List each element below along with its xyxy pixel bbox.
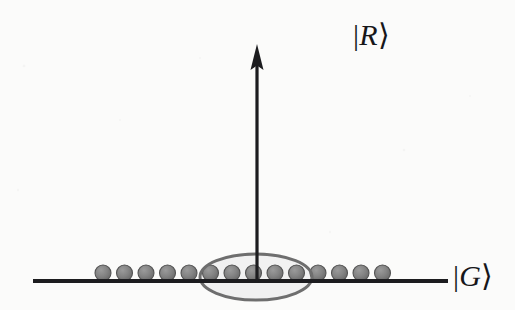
diagram-canvas [0,0,515,310]
ket-close-angle-r: ⟩ [378,18,390,51]
atom [375,265,391,281]
ground-state-label: |G⟩ [453,261,493,291]
rydberg-state-label: |R⟩ [353,20,390,50]
ket-close-angle-g: ⟩ [481,259,493,292]
atom [332,265,348,281]
state-symbol-r: R [359,18,378,51]
atom [224,265,240,281]
atom [353,265,369,281]
atom [160,265,176,281]
atom [181,265,197,281]
atom [289,265,305,281]
atom [117,265,133,281]
energy-level-diagram: |R⟩ |G⟩ [0,0,515,310]
atom [246,265,262,281]
atom [138,265,154,281]
atom [267,265,283,281]
atom [95,265,111,281]
state-symbol-g: G [459,259,481,292]
